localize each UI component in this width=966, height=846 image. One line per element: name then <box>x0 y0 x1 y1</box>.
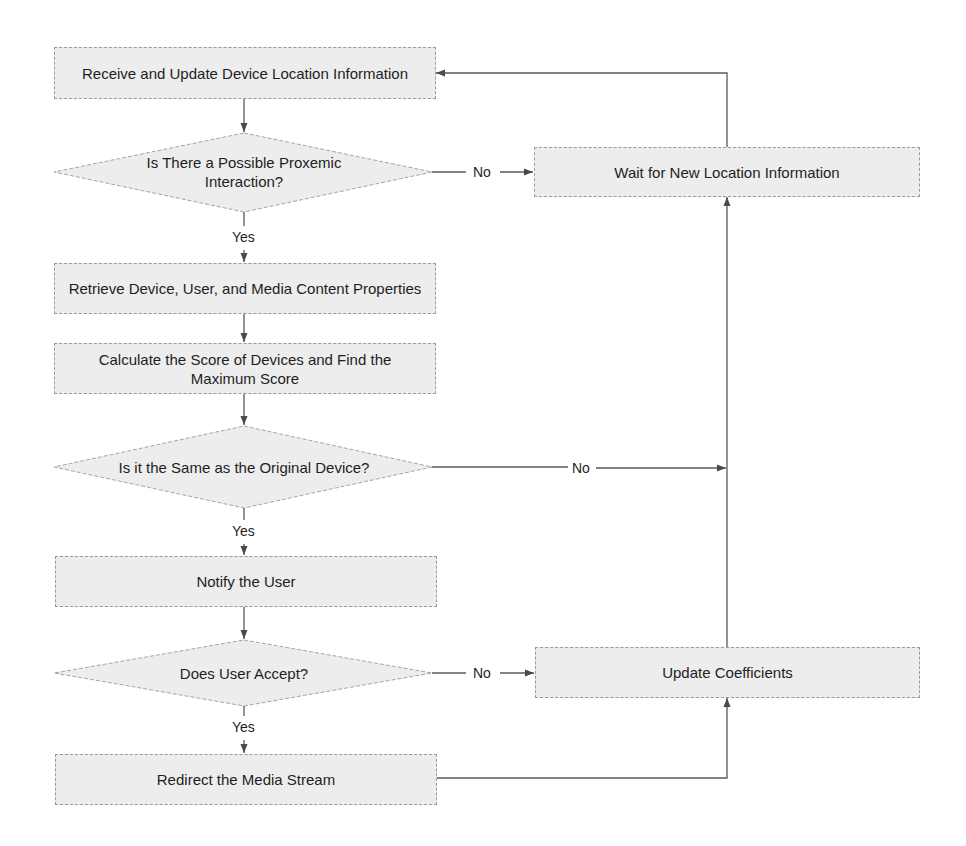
decision-same-device-label: Is it the Same as the Original Device? <box>70 456 418 478</box>
node-label: Notify the User <box>196 572 295 591</box>
node-retrieve-properties: Retrieve Device, User, and Media Content… <box>54 263 436 314</box>
edge-label-accept-yes: Yes <box>231 719 256 735</box>
decision-accept-label: Does User Accept? <box>120 662 368 684</box>
decision-proxemic-label: Is There a Possible Proxemic Interaction… <box>120 148 368 196</box>
node-label: Receive and Update Device Location Infor… <box>82 64 408 83</box>
node-label: Retrieve Device, User, and Media Content… <box>69 279 422 298</box>
edge-label-proxemic-yes: Yes <box>231 229 256 245</box>
node-label: Update Coefficients <box>662 663 793 682</box>
edge-label-same-no: No <box>571 460 591 476</box>
node-label: Calculate the Score of Devices and Find … <box>67 350 423 388</box>
flowchart-canvas: Receive and Update Device Location Infor… <box>0 0 966 846</box>
edge-label-same-yes: Yes <box>231 523 256 539</box>
connectors <box>0 0 966 846</box>
edge-label-accept-no: No <box>472 665 492 681</box>
node-calculate-score: Calculate the Score of Devices and Find … <box>54 343 436 394</box>
node-label: Wait for New Location Information <box>614 163 839 182</box>
edge-label-proxemic-no: No <box>472 164 492 180</box>
node-redirect-stream: Redirect the Media Stream <box>55 754 437 805</box>
node-receive-location: Receive and Update Device Location Infor… <box>54 47 436 99</box>
node-label: Redirect the Media Stream <box>157 770 335 789</box>
node-wait-location: Wait for New Location Information <box>534 147 920 197</box>
node-notify-user: Notify the User <box>55 556 437 607</box>
node-update-coefficients: Update Coefficients <box>535 647 920 698</box>
